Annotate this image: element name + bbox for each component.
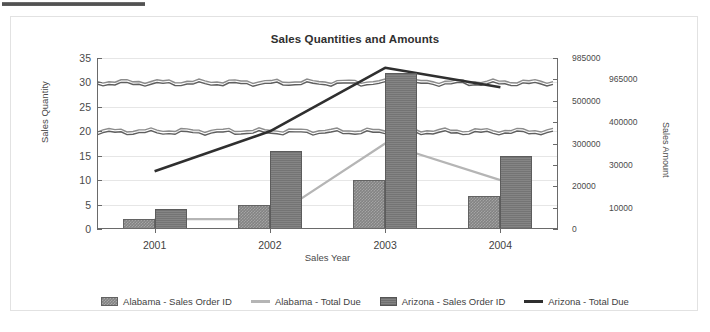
- legend-item-label: Alabama - Total Due: [275, 296, 361, 307]
- x-tick: [155, 229, 156, 233]
- x-tick: [385, 229, 386, 233]
- bar-alabama-2002: [238, 205, 270, 229]
- legend-item-3[interactable]: Arizona - Total Due: [524, 296, 629, 307]
- y-tick-label: 15: [79, 150, 91, 162]
- x-tick: [270, 229, 271, 233]
- y-tick-label: 25: [79, 101, 91, 113]
- y-tick: [97, 156, 102, 157]
- y-tick-label: 35: [79, 52, 91, 64]
- y2-tick-label: 400000: [609, 117, 637, 127]
- y-axis-left-ticks: 05101520253035: [57, 58, 91, 229]
- y2-tick: [553, 122, 558, 123]
- y-tick: [97, 107, 102, 108]
- y2-tick-label: 10000: [609, 203, 633, 213]
- y2-tick: [553, 144, 558, 145]
- y-axis-right-ticks: 0100002000030000300000400000500000965000…: [565, 58, 670, 229]
- bar-arizona-2004: [500, 156, 532, 229]
- y2-tick: [553, 58, 558, 59]
- x-axis-title: Sales Year: [97, 252, 558, 263]
- x-tick: [500, 229, 501, 233]
- x-tick-label: 2003: [373, 239, 396, 251]
- bar-arizona-2002: [270, 151, 302, 229]
- x-tick-label: 2004: [489, 239, 512, 251]
- y2-tick: [553, 208, 558, 209]
- legend-item-1[interactable]: Alabama - Total Due: [251, 296, 361, 307]
- y2-tick: [553, 229, 558, 230]
- scan-artifact-rule: [2, 2, 145, 6]
- x-axis-line: [97, 228, 558, 229]
- y2-tick-label: 0: [572, 224, 577, 234]
- y2-tick-label: 985000: [572, 53, 600, 63]
- legend-line-swatch-icon: [524, 300, 543, 303]
- y2-tick: [553, 101, 558, 102]
- y-tick-label: 30: [79, 76, 91, 88]
- legend-bar-swatch-icon: [380, 297, 397, 306]
- legend-item-0[interactable]: Alabama - Sales Order ID: [101, 296, 232, 307]
- line-alabama-total-due: [155, 144, 501, 220]
- y2-tick: [553, 79, 558, 80]
- bar-alabama-2003: [353, 180, 385, 229]
- y2-tick-label: 20000: [572, 181, 596, 191]
- chart-legend: Alabama - Sales Order IDAlabama - Total …: [21, 296, 709, 307]
- y2-tick: [553, 165, 558, 166]
- bar-alabama-2004: [468, 196, 500, 229]
- x-tick-label: 2002: [258, 239, 281, 251]
- y-tick: [97, 180, 102, 181]
- y-tick-label: 5: [85, 199, 91, 211]
- y2-tick-label: 965000: [609, 74, 637, 84]
- y-tick: [97, 131, 102, 132]
- y-tick-label: 10: [79, 174, 91, 186]
- y-axis-left-title: Sales Quantity: [39, 81, 50, 143]
- plot-area: 2001200220032004: [97, 58, 558, 229]
- y2-tick-label: 500000: [572, 96, 600, 106]
- y-tick: [97, 82, 102, 83]
- legend-item-label: Alabama - Sales Order ID: [123, 296, 232, 307]
- y-tick: [97, 229, 102, 230]
- legend-item-label: Arizona - Sales Order ID: [402, 296, 505, 307]
- bar-arizona-2003: [385, 73, 417, 229]
- bar-arizona-2001: [155, 209, 187, 229]
- legend-line-swatch-icon: [251, 300, 270, 303]
- y-tick-label: 20: [79, 125, 91, 137]
- y2-tick: [553, 186, 558, 187]
- legend-bar-swatch-icon: [101, 297, 118, 306]
- y2-tick-label: 300000: [572, 139, 600, 149]
- x-tick-label: 2001: [143, 239, 166, 251]
- y-tick: [97, 58, 102, 59]
- legend-item-label: Arizona - Total Due: [548, 296, 629, 307]
- chart-frame: Sales Quantities and Amounts Sales Quant…: [10, 16, 698, 311]
- y-axis-line: [97, 58, 98, 229]
- chart-title: Sales Quantities and Amounts: [11, 33, 699, 45]
- y-tick-label: 0: [85, 223, 91, 235]
- y2-tick-label: 30000: [609, 160, 633, 170]
- y-tick: [97, 205, 102, 206]
- legend-item-2[interactable]: Arizona - Sales Order ID: [380, 296, 505, 307]
